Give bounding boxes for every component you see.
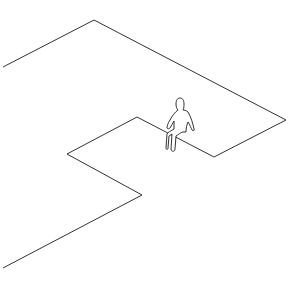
platform-outline — [0, 0, 305, 285]
diagram-canvas: Isometric outline of a stepped platform/… — [0, 0, 305, 285]
seated-person-icon — [166, 98, 194, 151]
ledge-outline — [3, 20, 286, 268]
